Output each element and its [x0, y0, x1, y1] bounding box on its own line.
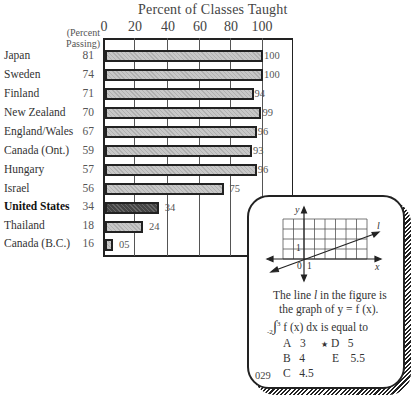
- correct-star-icon: ★: [321, 340, 328, 349]
- question-card: y x l 0 1 1 The line l in the figure is …: [247, 195, 405, 389]
- bar: [105, 202, 159, 214]
- bar: [105, 164, 257, 176]
- choice-a[interactable]: A 3: [283, 337, 306, 349]
- bar-value-label: 34: [165, 202, 176, 213]
- int-text: f (x) dx is equal to: [283, 321, 368, 333]
- choice-e[interactable]: E 5.5: [332, 352, 365, 364]
- choice-c[interactable]: C 4.5: [283, 367, 314, 379]
- chart-frame-bottom: [103, 255, 250, 257]
- x-tick-60: 60: [193, 19, 207, 35]
- bar-value-label: 100: [264, 50, 280, 61]
- svg-text:x: x: [374, 261, 380, 272]
- percent-passing-value: 70: [60, 106, 94, 118]
- percent-passing-value: 71: [60, 87, 94, 99]
- country-label: New Zealand: [4, 106, 66, 118]
- letter: C: [283, 367, 291, 379]
- question-line-1: The line l in the figure is: [273, 289, 387, 301]
- bar-value-label: 94: [255, 88, 266, 99]
- value: 4.5: [299, 367, 313, 379]
- item-number: 029: [255, 370, 271, 381]
- bar: [105, 221, 143, 233]
- value: 4: [299, 352, 305, 364]
- x-tick-100: 100: [252, 19, 273, 35]
- bar-value-label: 100: [264, 69, 280, 80]
- value: 5: [348, 337, 354, 349]
- percent-passing-value: 18: [60, 219, 94, 231]
- choice-d[interactable]: ★ D 5: [321, 337, 354, 349]
- value: 5.5: [351, 352, 365, 364]
- country-label: Sweden: [4, 68, 40, 80]
- bar-value-label: 96: [258, 164, 269, 175]
- bar: [105, 69, 263, 81]
- bar-value-label: 05: [119, 239, 130, 250]
- percent-passing-value: 56: [60, 182, 94, 194]
- svg-text:1: 1: [296, 243, 301, 253]
- bar: [105, 50, 263, 62]
- bar-value-label: 75: [230, 183, 241, 194]
- percent-passing-header: (Percent Passing): [56, 27, 100, 49]
- q1var: l: [314, 289, 317, 301]
- bar: [105, 183, 224, 195]
- percent-passing-value: 81: [60, 49, 94, 61]
- header-line1: (Percent: [56, 27, 100, 38]
- svg-text:0: 0: [297, 261, 302, 271]
- x-tick-40: 40: [161, 19, 175, 35]
- line-graph-icon: y x l 0 1 1: [265, 205, 389, 285]
- country-label: Thailand: [4, 219, 45, 231]
- chart-frame-right: [292, 38, 293, 196]
- q1b: in the figure is: [320, 289, 387, 301]
- bar-value-label: 93: [253, 145, 264, 156]
- bar: [105, 126, 257, 138]
- percent-passing-value: 16: [60, 237, 94, 249]
- q1a: The line: [273, 289, 311, 301]
- percent-passing-value: 57: [60, 163, 94, 175]
- choice-b[interactable]: B 4: [283, 352, 305, 364]
- percent-passing-value: 67: [60, 125, 94, 137]
- int-upper: 3: [277, 320, 281, 328]
- svg-text:l: l: [377, 220, 380, 231]
- percent-passing-value: 74: [60, 68, 94, 80]
- x-tick-80: 80: [224, 19, 238, 35]
- percent-passing-value: 34: [60, 200, 94, 212]
- letter: B: [283, 352, 291, 364]
- header-line2: Passing): [56, 38, 100, 49]
- question-integral: -2∫3 f (x) dx is equal to: [267, 318, 368, 336]
- svg-text:1: 1: [307, 261, 312, 271]
- country-label: Hungary: [4, 163, 44, 175]
- letter: A: [283, 337, 291, 349]
- letter: D: [331, 337, 339, 349]
- bar-value-label: 96: [258, 126, 269, 137]
- bar-value-label: 99: [262, 107, 273, 118]
- country-label: Japan: [4, 49, 30, 61]
- letter: E: [332, 352, 339, 364]
- country-label: Israel: [4, 182, 30, 194]
- bar-value-label: 24: [149, 221, 160, 232]
- country-label: Finland: [4, 87, 39, 99]
- svg-text:y: y: [294, 205, 300, 215]
- chart-title: Percent of Classes Taught: [138, 2, 288, 18]
- question-line-2: the graph of y = f (x).: [279, 303, 378, 315]
- bar: [105, 107, 261, 119]
- bar: [105, 88, 254, 100]
- value: 3: [300, 337, 306, 349]
- percent-passing-value: 59: [60, 144, 94, 156]
- x-tick-0: 0: [101, 19, 108, 35]
- bar: [105, 145, 252, 157]
- bar: [105, 239, 113, 251]
- x-tick-20: 20: [128, 19, 142, 35]
